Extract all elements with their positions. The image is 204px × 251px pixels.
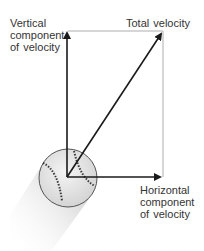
- vertical-label-line-1: Vertical: [10, 17, 64, 29]
- vertical-label-line-2: component: [10, 29, 64, 41]
- horizontal-label-line-1: Horizontal: [140, 184, 194, 196]
- total-velocity-arrow: [67, 34, 161, 177]
- baseball-icon: [39, 149, 97, 207]
- vertical-label-line-3: of velocity: [10, 41, 64, 53]
- horizontal-label-line-2: component: [140, 196, 194, 208]
- velocity-diagram: Vertical component of velocity Total vel…: [0, 0, 204, 251]
- vertical-label: Vertical component of velocity: [10, 17, 64, 53]
- horizontal-label: Horizontal component of velocity: [140, 184, 194, 220]
- total-velocity-label: Total velocity: [126, 17, 190, 29]
- horizontal-label-line-3: of velocity: [140, 208, 194, 220]
